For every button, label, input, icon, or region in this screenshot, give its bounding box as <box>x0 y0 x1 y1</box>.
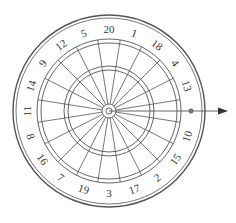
sector-number-5: 5 <box>79 26 88 39</box>
sector-number-19: 19 <box>77 182 92 197</box>
sector-divider-line <box>98 40 108 104</box>
sector-number-16: 16 <box>35 151 51 167</box>
sector-number-2: 2 <box>151 171 163 184</box>
sector-number-11: 11 <box>21 106 33 117</box>
sector-number-10: 10 <box>180 129 195 144</box>
sector-divider-line <box>110 40 120 104</box>
dartboard-diagram: 201184131015217319716811149125 <box>0 0 236 223</box>
sector-number-20: 20 <box>104 23 116 35</box>
sector-number-3: 3 <box>106 187 112 199</box>
sector-divider-line <box>116 100 180 110</box>
sector-divider-line <box>110 118 120 182</box>
sector-divider-line <box>38 112 102 122</box>
sector-number-15: 15 <box>167 151 183 167</box>
sector-divider-line <box>38 100 102 110</box>
arrowhead-icon <box>218 108 228 115</box>
sector-number-4: 4 <box>169 57 182 69</box>
sector-number-17: 17 <box>127 181 142 196</box>
sector-divider-line <box>58 116 104 162</box>
sector-number-18: 18 <box>149 37 165 53</box>
sector-number-7: 7 <box>55 171 67 184</box>
sector-divider-line <box>116 112 180 122</box>
sector-number-14: 14 <box>24 78 39 93</box>
dart-position-marker <box>189 109 193 113</box>
sector-divider-line <box>58 60 104 106</box>
sector-divider-line <box>114 116 160 162</box>
sector-number-1: 1 <box>130 26 139 39</box>
sector-number-9: 9 <box>36 57 49 69</box>
sector-divider-line <box>98 118 108 182</box>
sector-number-13: 13 <box>180 79 195 94</box>
sector-number-8: 8 <box>24 132 37 141</box>
sector-number-12: 12 <box>53 37 69 53</box>
sector-divider-line <box>114 60 160 106</box>
